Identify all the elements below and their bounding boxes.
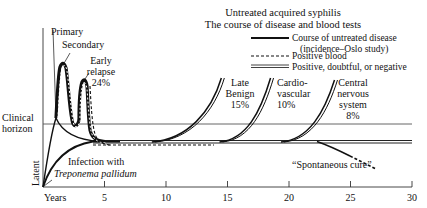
clinical-horizon-label-2: horizon	[2, 123, 33, 134]
label-late-benign-1: Late	[231, 77, 249, 88]
label-late-benign-2: Benign	[226, 88, 255, 99]
latent-label: Latent	[30, 160, 41, 186]
secondary-pointer	[63, 53, 70, 65]
legend: Course of untreated disease (incidence–O…	[251, 33, 407, 72]
label-early-relapse-pct: 24%	[92, 77, 110, 88]
clinical-horizon-label-1: Clinical	[2, 112, 34, 123]
label-infection-2: Treponema pallidum	[54, 168, 137, 179]
legend-label-positive-blood: Positive blood	[292, 51, 347, 61]
label-cns-1: Central	[338, 77, 368, 88]
label-cns-2: nervous	[337, 88, 369, 99]
legend-label-course: Course of untreated disease	[292, 33, 397, 43]
spontaneous-cure-curve	[317, 142, 350, 157]
label-early-relapse-1: Early	[90, 55, 112, 66]
x-tick-label-25: 25	[346, 192, 356, 203]
title-line-2: The course of disease and blood tests	[205, 19, 361, 30]
x-tick-label-10: 10	[161, 192, 171, 203]
late-benign-branch-line-2	[155, 78, 225, 142]
legend-label-double: Positive, doubtful, or negative	[292, 62, 407, 72]
x-axis-label: Years	[44, 192, 66, 203]
syphilis-course-diagram: Untreated acquired syphilis The course o…	[0, 0, 427, 208]
x-tick-label-20: 20	[284, 192, 294, 203]
late-benign-branch-line	[152, 78, 222, 142]
label-cns-pct: 8%	[346, 110, 359, 121]
label-cns-3: system	[339, 99, 367, 110]
label-secondary: Secondary	[62, 39, 104, 50]
title-line-1: Untreated acquired syphilis	[225, 7, 340, 18]
label-infection-1: Infection with	[68, 156, 124, 167]
x-tick-label-30: 30	[407, 192, 417, 203]
label-cardio-2: vascular	[277, 88, 311, 99]
early-relapse-curve	[79, 80, 105, 142]
x-tick-label-15: 15	[223, 192, 233, 203]
label-primary: Primary	[51, 26, 83, 37]
x-ticks: 51015202530	[102, 181, 417, 203]
label-cardio-pct: 10%	[277, 99, 295, 110]
spontaneous-cure-label: “Spontaneous cure”	[292, 159, 372, 170]
label-early-relapse-2: relapse	[87, 66, 116, 77]
x-tick-label-5: 5	[102, 192, 107, 203]
label-cardio-1: Cardio-	[277, 77, 308, 88]
label-late-benign-pct: 15%	[231, 99, 249, 110]
